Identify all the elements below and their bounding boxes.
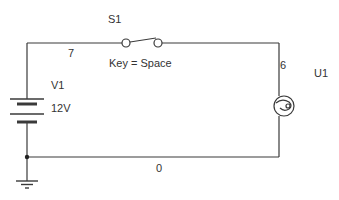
- schematic-drawing: [0, 0, 339, 200]
- switch-key-label: Key = Space: [109, 58, 172, 69]
- node-label-0: 0: [156, 163, 162, 174]
- lamp-u1[interactable]: [274, 96, 294, 116]
- switch-ref-label: S1: [108, 14, 121, 25]
- switch-s1[interactable]: [122, 38, 162, 47]
- battery-ref-label: V1: [51, 80, 64, 91]
- switch-lever-icon: [130, 38, 156, 42]
- junction-dot: [25, 155, 29, 159]
- switch-contact-right-icon: [154, 39, 162, 47]
- battery-v1[interactable]: [10, 99, 44, 122]
- ground-icon: [16, 181, 38, 188]
- circuit-canvas: S1 Key = Space 7 6 U1 V1 12V 0: [0, 0, 339, 200]
- battery-value-label: 12V: [51, 103, 71, 114]
- lamp-ref-label: U1: [314, 68, 328, 79]
- switch-contact-left-icon: [122, 39, 130, 47]
- node-label-7: 7: [68, 48, 74, 59]
- node-label-6: 6: [280, 60, 286, 71]
